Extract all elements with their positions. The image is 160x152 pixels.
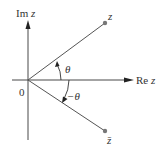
conjugate-diagram: Im z Re z 0 z z̄ θ −θ: [0, 0, 160, 152]
imag-axis-label: Im z: [16, 7, 36, 19]
point-z: [103, 21, 107, 25]
imag-axis-arrow-icon: [26, 20, 31, 29]
ray-z-conjugate: [28, 80, 105, 131]
neg-theta-label: −θ: [67, 90, 80, 102]
point-z-conjugate: [103, 129, 107, 133]
point-z-conjugate-label: z̄: [106, 134, 112, 146]
real-axis-arrow-icon: [124, 78, 134, 83]
real-axis-label: Re z: [136, 74, 156, 86]
theta-label: θ: [65, 63, 71, 75]
theta-arrow-icon: [55, 61, 60, 67]
origin-label: 0: [19, 86, 25, 98]
point-z-label: z: [107, 10, 113, 22]
